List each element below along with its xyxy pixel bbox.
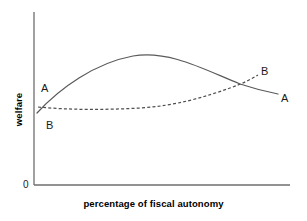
chart-plot-area: 0 A B B A xyxy=(0,0,307,221)
y-axis-title: welfare xyxy=(13,70,24,150)
x-axis-title: percentage of fiscal autonomy xyxy=(0,198,307,209)
series-label-b-right: B xyxy=(261,65,268,77)
series-label-a-right: A xyxy=(281,92,289,104)
series-curve-b xyxy=(38,75,258,109)
origin-label: 0 xyxy=(23,179,29,190)
series-label-b-left: B xyxy=(46,119,53,131)
chart-figure: 0 A B B A percentage of fiscal autonomy … xyxy=(0,0,307,221)
series-curve-a xyxy=(37,55,278,113)
series-label-a-left: A xyxy=(41,82,49,94)
